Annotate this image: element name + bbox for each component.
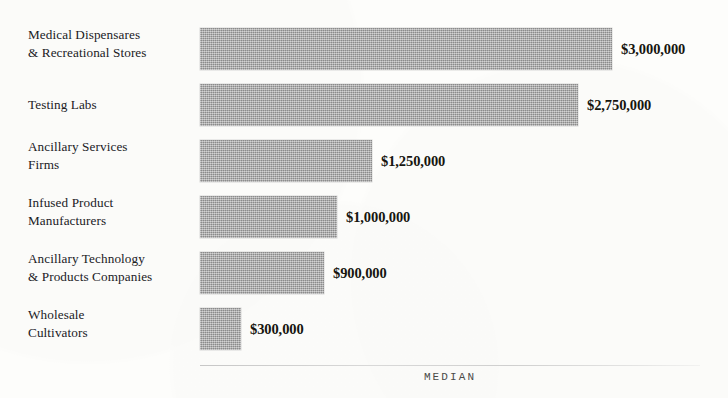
bar-value-label: $1,250,000: [381, 140, 445, 182]
category-label: Infused Product Manufacturers: [28, 194, 196, 229]
bar-value-label: $3,000,000: [621, 28, 685, 70]
bar[interactable]: [200, 84, 578, 126]
bar[interactable]: [200, 140, 372, 182]
category-label: Medical Dispensares & Recreational Store…: [28, 26, 196, 61]
bar[interactable]: [200, 28, 612, 70]
bar[interactable]: [200, 196, 337, 238]
category-label: Ancillary Technology & Products Companie…: [28, 250, 196, 285]
bar-rows-container: Medical Dispensares & Recreational Store…: [0, 0, 728, 360]
bar-value-label: $2,750,000: [587, 84, 651, 126]
bar[interactable]: [200, 308, 241, 350]
bar-chart: Medical Dispensares & Recreational Store…: [0, 0, 728, 398]
category-label: Ancillary Services Firms: [28, 138, 196, 173]
bar-value-label: $1,000,000: [346, 196, 410, 238]
bar[interactable]: [200, 252, 324, 294]
bar-value-label: $300,000: [250, 308, 304, 350]
x-axis-line: [200, 365, 700, 366]
category-label: Testing Labs: [28, 96, 196, 114]
x-axis-title: MEDIAN: [200, 371, 700, 383]
bar-value-label: $900,000: [333, 252, 387, 294]
category-label: Wholesale Cultivators: [28, 306, 196, 341]
